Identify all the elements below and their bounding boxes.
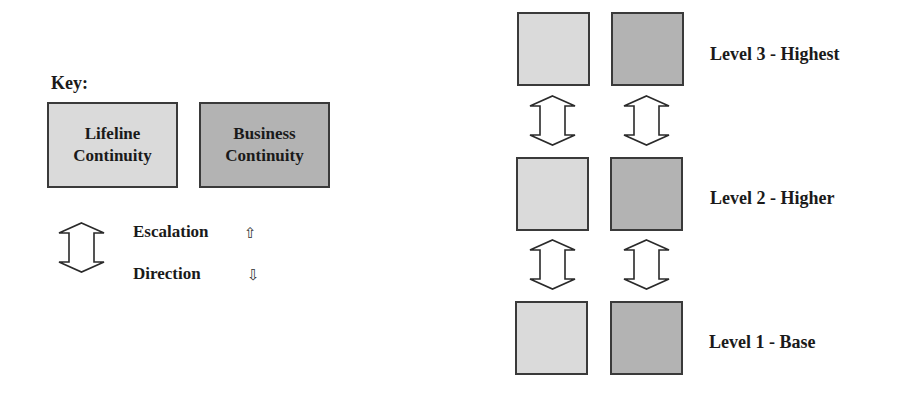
key-title: Key: [51, 72, 88, 94]
escalation-arrow-icon [622, 239, 671, 290]
key-lifeline-line2: Continuity [73, 145, 151, 167]
key-business-continuity: Business Continuity [199, 102, 330, 188]
key-escalation-arrow-icon [57, 222, 106, 273]
level1-lifeline-square [515, 301, 588, 375]
up-arrow-icon: ⇧ [244, 223, 257, 243]
escalation-label: Escalation [133, 222, 209, 242]
level1-label: Level 1 - Base [709, 331, 815, 353]
level2-lifeline-square [516, 157, 589, 231]
escalation-arrow-icon [528, 95, 577, 146]
key-lifeline-continuity: Lifeline Continuity [47, 102, 178, 188]
level3-business-square [611, 12, 684, 86]
level3-lifeline-square [517, 12, 590, 86]
escalation-arrow-icon [528, 239, 577, 290]
down-arrow-icon: ⇩ [247, 265, 260, 285]
level1-business-square [610, 301, 683, 375]
key-lifeline-line1: Lifeline [85, 123, 141, 145]
level2-business-square [610, 157, 683, 231]
level2-label: Level 2 - Higher [710, 187, 834, 209]
level3-label: Level 3 - Highest [710, 43, 839, 65]
direction-text: Direction [133, 264, 201, 283]
key-business-line1: Business [233, 123, 295, 145]
escalation-arrow-icon [622, 95, 671, 146]
key-business-line2: Continuity [225, 145, 303, 167]
escalation-text: Escalation [133, 222, 209, 241]
direction-label: Direction [133, 264, 201, 284]
